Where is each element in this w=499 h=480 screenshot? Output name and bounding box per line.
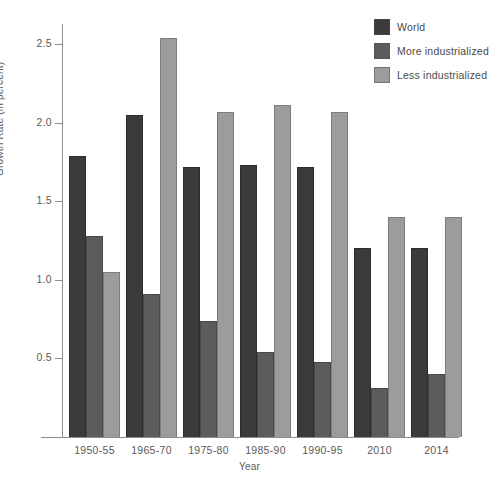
bar-group [69,156,120,437]
bar [160,38,177,437]
bar-group [183,112,234,437]
bar [445,217,462,437]
bar [331,112,348,437]
x-axis-title: Year [0,461,499,472]
legend-item: Less industrialized [374,65,489,85]
bar [297,167,314,437]
legend-swatch-icon [374,19,390,35]
bar-group [126,38,177,437]
y-tick-mark [55,44,62,45]
y-axis-title: Growth Rate (in percent) [0,6,5,176]
bar [428,374,445,437]
legend-swatch-icon [374,43,390,59]
bar [103,272,120,437]
y-tick-mark [55,201,62,202]
y-tick-mark [55,123,62,124]
bar [371,388,388,437]
y-tick-label: 2.0 [26,116,52,128]
bar [388,217,405,437]
y-tick-mark [55,358,62,359]
bar [183,167,200,437]
x-tick-label: 2014 [402,444,471,456]
plot-area [62,44,490,437]
bar [143,294,160,437]
legend-item: More industrialized [374,41,489,61]
bar-chart: 0.51.01.52.02.5 Growth Rate (in percent)… [0,0,499,480]
bar [200,321,217,437]
bar-group [240,105,291,437]
legend-label: World [397,21,425,33]
bar-group [297,112,348,437]
legend-item: World [374,17,489,37]
bar [411,248,428,437]
bar [240,165,257,437]
bar [126,115,143,437]
x-axis-line [41,437,459,438]
legend-swatch-icon [374,67,390,83]
chart-legend: WorldMore industrializedLess industriali… [374,17,489,89]
y-tick-label: 1.5 [26,194,52,206]
bar [257,352,274,437]
bar-group [354,217,405,437]
bar [314,362,331,437]
y-tick-label: 2.5 [26,37,52,49]
bar [86,236,103,437]
legend-label: More industrialized [397,45,489,57]
bar [354,248,371,437]
bar [69,156,86,437]
bar [274,105,291,437]
y-tick-mark [55,280,62,281]
y-tick-label: 0.5 [26,351,52,363]
bar [217,112,234,437]
legend-label: Less industrialized [397,69,487,81]
y-tick-label: 1.0 [26,273,52,285]
bar-group [411,217,462,437]
